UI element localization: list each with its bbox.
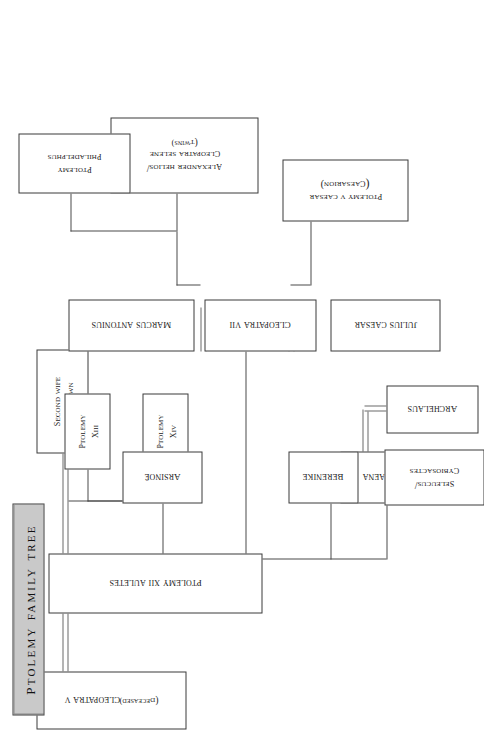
node-ptolemy-philadelphus-line-2: Philadelphus: [47, 150, 101, 163]
node-berenike-label: Berenike: [302, 470, 343, 485]
node-arsinoe[interactable]: Arsinoë: [122, 451, 202, 503]
node-twins-line-2: Cleopatra Selene: [149, 147, 220, 160]
node-cleopatra-v-sublabel: (deceased): [119, 695, 158, 706]
marriage-link-archelaus-drop: [364, 405, 386, 411]
node-ptolemy-xiii-line-1: Ptolemy: [74, 414, 87, 448]
connector-to-caesarion: [310, 221, 311, 285]
connector-antonius-children-spine: [176, 284, 200, 285]
node-berenike[interactable]: Berenike: [288, 451, 358, 503]
connector-to-tryphaena: [386, 503, 387, 559]
node-archelaus[interactable]: Archelaus: [386, 385, 478, 433]
node-seleucus-cybiosactes[interactable]: Seleucus/ Cybiosactes: [384, 449, 484, 505]
connector-antonius-children-bus: [70, 230, 176, 231]
node-arsinoe-label: Arsinoë: [144, 470, 180, 485]
node-cleopatra-v-label: Cleopatra V: [64, 693, 120, 708]
connector-caesarion-drop: [290, 284, 310, 285]
node-ptolemy-xii-auletes-label: Ptolemy XII Auletes: [109, 576, 201, 591]
node-ptolemy-xii-auletes[interactable]: Ptolemy XII Auletes: [48, 553, 262, 613]
node-julius-caesar-label: Julius Caesar: [354, 318, 417, 333]
node-seleucus-cybiosactes-line-2: Cybiosactes: [409, 464, 459, 477]
connector-to-ptolemyxiii: [87, 469, 88, 501]
node-ptolemy-xiv-line-2: XIV: [165, 424, 178, 437]
node-archelaus-label: Archelaus: [407, 402, 457, 417]
node-ptolemy-xiii[interactable]: Ptolemy XIII: [64, 393, 110, 469]
diagram-title: Ptolemy Family Tree: [12, 503, 44, 715]
connector-to-cleopatravii: [245, 351, 246, 559]
node-ptolemy-xiii-line-2: XIII: [87, 424, 100, 437]
diagram-title-text: Ptolemy Family Tree: [18, 524, 39, 694]
node-marcus-antonius[interactable]: Marcus Antonius: [68, 299, 194, 351]
node-caesarion-line-1: Ptolemy V Caesar: [309, 190, 382, 203]
node-twins-sublabel: (twins): [171, 137, 197, 148]
node-ptolemy-xiv-line-1: Ptolemy: [152, 414, 165, 448]
node-twins[interactable]: Alexander Helios/ Cleopatra Selene (twin…: [110, 117, 258, 193]
node-cleopatra-vii-label: Cleopatra VII: [229, 318, 290, 333]
node-marcus-antonius-label: Marcus Antonius: [91, 318, 171, 333]
connector-to-philadelphus: [70, 193, 71, 231]
node-julius-caesar[interactable]: Julius Caesar: [330, 299, 440, 351]
node-caesarion-line-2: (Caesarion): [320, 177, 369, 190]
node-ptolemy-philadelphus[interactable]: Ptolemy Philadelphus: [18, 133, 130, 193]
node-seleucus-cybiosactes-line-1: Seleucus/: [414, 477, 454, 490]
node-caesarion[interactable]: Ptolemy V Caesar (Caesarion): [282, 159, 408, 221]
connector-to-twins: [176, 193, 177, 231]
connector-to-arsinoe: [162, 503, 163, 559]
connector-antonius-bus-stem: [176, 231, 177, 285]
marriage-link-ptolemyxii-cleopatrav: [62, 613, 68, 671]
node-second-wife-line-1: Second wife: [49, 376, 62, 425]
node-cleopatra-vii[interactable]: Cleopatra VII: [204, 299, 316, 351]
node-ptolemy-philadelphus-line-1: Ptolemy: [57, 163, 91, 176]
connector-to-berenike: [330, 503, 331, 559]
node-cleopatra-v[interactable]: Cleopatra V (deceased): [36, 671, 186, 729]
node-twins-line-1: Alexander Helios/: [146, 160, 221, 173]
